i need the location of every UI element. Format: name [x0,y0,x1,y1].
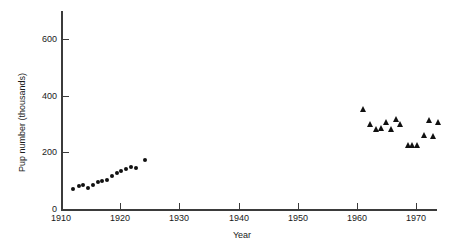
x-tick-1960 [357,203,358,209]
x-tick-1950 [298,203,299,209]
data-point [81,183,85,187]
plot-area [0,0,462,249]
y-tick-600 [63,39,69,40]
x-tick-label-1960: 1960 [337,214,377,223]
y-tick-200 [63,152,69,153]
data-point [96,180,100,184]
x-tick-1930 [179,203,180,209]
data-point [393,116,399,122]
y-tick-label-400: 400 [27,92,57,101]
x-tick-1970 [416,203,417,209]
data-point [71,187,75,191]
x-axis-title: Year [0,231,462,240]
x-axis-line [61,209,437,211]
data-point [110,174,114,178]
data-point [77,184,81,188]
data-point [405,142,411,148]
data-point [426,117,432,123]
data-point [414,142,420,148]
data-point [360,106,366,112]
x-tick-1920 [120,203,121,209]
x-tick-label-1940: 1940 [219,214,259,223]
data-point [430,133,436,139]
x-tick-label-1950: 1950 [278,214,318,223]
data-point [119,169,123,173]
data-point [388,126,394,132]
data-point [105,178,109,182]
data-point [86,186,90,190]
data-point [367,121,373,127]
data-point [435,119,441,125]
scatter-plot-figure: 0200400600 1910192019301940195019601970 … [0,0,462,249]
data-point [421,132,427,138]
x-tick-1940 [239,203,240,209]
x-tick-label-1970: 1970 [396,214,436,223]
x-tick-label-1930: 1930 [159,214,199,223]
y-axis-line [61,11,63,211]
x-tick-label-1910: 1910 [41,214,81,223]
data-point [378,125,384,131]
y-tick-400 [63,96,69,97]
data-point [91,183,95,187]
data-point [409,142,415,148]
data-point [373,126,379,132]
data-point [134,166,138,170]
x-tick-label-1920: 1920 [100,214,140,223]
y-tick-label-200: 200 [27,148,57,157]
y-axis-title: Pup number (thousands) [18,73,27,172]
data-point [143,158,147,162]
data-point [124,167,128,171]
data-point [383,119,389,125]
data-point [100,179,104,183]
data-point [115,171,119,175]
data-point [129,165,133,169]
y-tick-label-600: 600 [27,35,57,44]
data-point [397,121,403,127]
